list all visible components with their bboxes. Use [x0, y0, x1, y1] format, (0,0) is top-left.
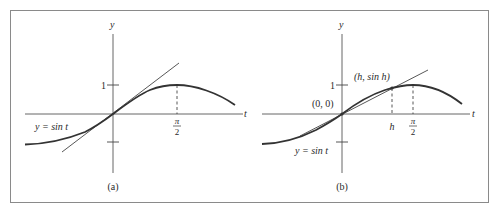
sine-curve: [25, 85, 235, 145]
panel-a: y t 1 π 2 y = sin t (a): [25, 19, 247, 193]
pi-denominator: 2: [175, 127, 180, 137]
panel-caption: (b): [336, 181, 348, 193]
pi-numerator: π: [411, 116, 416, 126]
point-h-sin-h: [390, 86, 393, 89]
sine-curve: [262, 85, 462, 144]
t-axis-label: t: [472, 108, 475, 119]
pi-half-label: π 2: [409, 116, 417, 137]
panel-b: y t 1 (h, sin h) (0, 0) h π 2 y = sin t …: [262, 19, 475, 193]
t-axis-label: t: [244, 108, 247, 119]
curve-label: y = sin t: [34, 121, 68, 132]
tick-one-label: 1: [101, 80, 106, 91]
origin-label: (0, 0): [312, 98, 334, 110]
figure-frame: [11, 11, 489, 203]
curve-label: y = sin t: [294, 145, 328, 156]
point-label: (h, sin h): [354, 71, 391, 83]
panel-caption: (a): [107, 181, 118, 193]
pi-denominator: 2: [411, 127, 416, 137]
y-axis-label: y: [109, 19, 115, 30]
y-axis-label: y: [338, 19, 344, 30]
point-origin: [340, 112, 343, 115]
h-label: h: [390, 121, 395, 132]
pi-half-label: π 2: [173, 116, 181, 137]
tick-one-label: 1: [330, 80, 335, 91]
pi-numerator: π: [175, 116, 180, 126]
sine-limit-figure: y t 1 π 2 y = sin t (a) y t 1 (h, sin h): [0, 0, 497, 210]
